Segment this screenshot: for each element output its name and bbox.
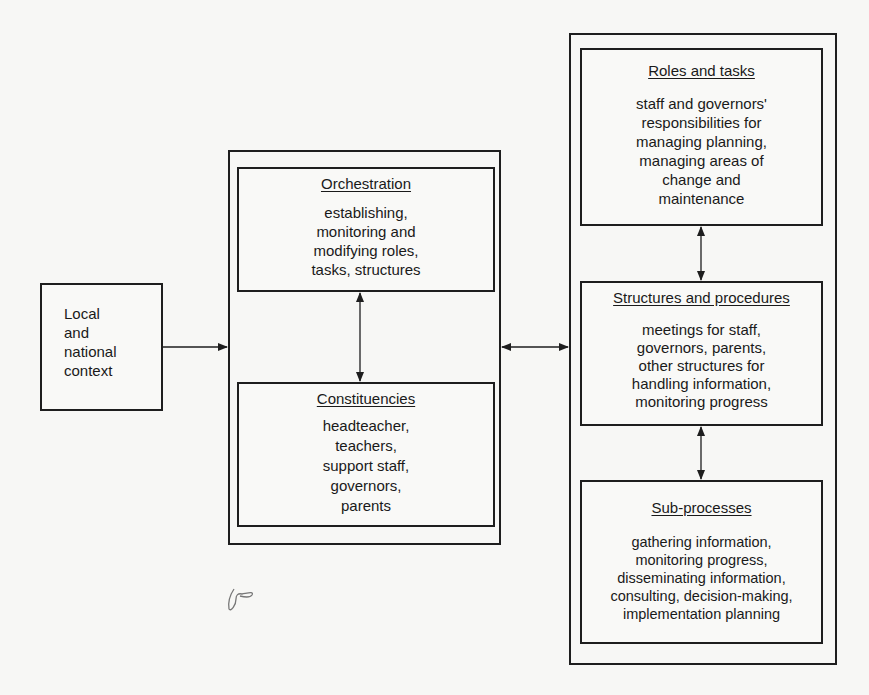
connector-layer — [0, 0, 869, 695]
handwritten-mark-icon — [224, 585, 264, 615]
